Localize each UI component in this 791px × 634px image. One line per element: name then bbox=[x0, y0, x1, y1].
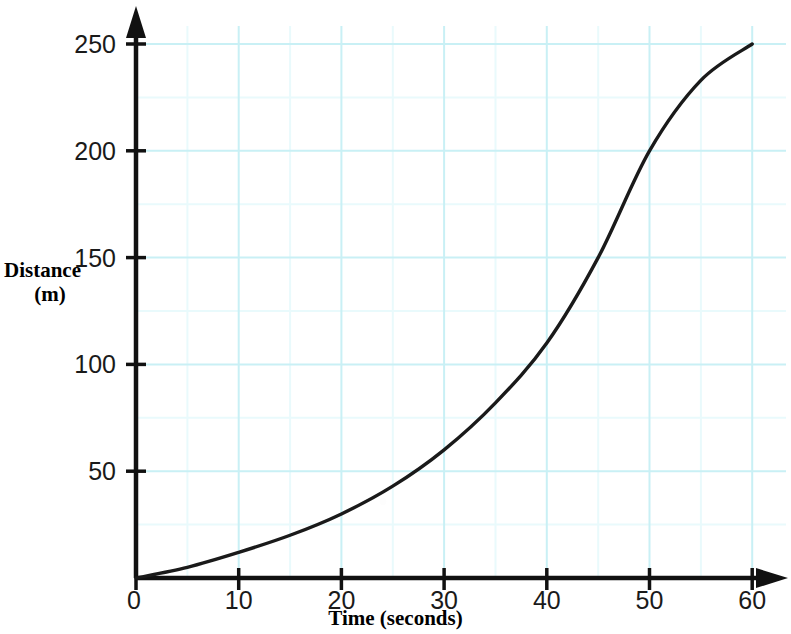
y-axis-title-name: Distance bbox=[4, 258, 81, 282]
y-tick-label-250: 250 bbox=[20, 32, 116, 57]
grid-minor bbox=[136, 26, 786, 578]
x-axis-title-text: Time (seconds) bbox=[328, 606, 462, 630]
y-axis-title-unit: (m) bbox=[4, 282, 96, 306]
axis-lines bbox=[136, 26, 768, 578]
y-tick-label-100: 100 bbox=[20, 352, 116, 377]
y-tick-label-50: 50 bbox=[20, 459, 116, 484]
plot-area bbox=[0, 0, 791, 634]
y-axis-arrowhead bbox=[126, 6, 146, 38]
y-axis-title: Distance (m) bbox=[4, 258, 108, 306]
x-axis-title: Time (seconds) bbox=[0, 606, 791, 630]
x-axis-arrowhead bbox=[756, 568, 788, 588]
y-tick-label-200: 200 bbox=[20, 139, 116, 164]
grid-major bbox=[136, 26, 786, 578]
distance-time-graph: 250 200 150 100 50 0 10 20 30 40 50 60 D… bbox=[0, 0, 791, 634]
